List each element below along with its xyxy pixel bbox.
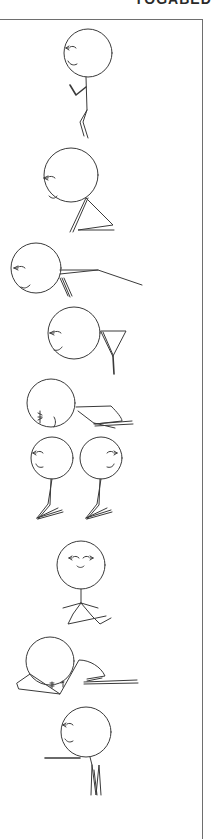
legs xyxy=(90,757,101,795)
arms-prayer xyxy=(70,85,86,95)
closed-eye-icon xyxy=(63,723,73,727)
pose-figure-2 xyxy=(44,148,114,232)
arms-quad xyxy=(17,674,60,694)
closed-eye-icon xyxy=(107,451,117,455)
closed-eye-icon xyxy=(44,176,55,180)
smile xyxy=(65,739,73,742)
smile xyxy=(107,464,114,467)
smile xyxy=(54,347,62,350)
arm-extended xyxy=(60,270,142,285)
smile xyxy=(49,196,57,198)
pose-figure-8 xyxy=(17,637,138,694)
head xyxy=(64,29,112,77)
smile xyxy=(21,285,30,288)
legs xyxy=(94,421,133,428)
head xyxy=(44,148,98,202)
closed-eye-icon xyxy=(38,411,42,423)
legs-y xyxy=(101,331,126,356)
legs xyxy=(84,678,138,684)
head xyxy=(61,707,111,757)
head xyxy=(48,307,100,359)
legs xyxy=(60,278,72,297)
head xyxy=(27,379,75,427)
pose-figure-1 xyxy=(64,29,112,138)
body-arch xyxy=(60,660,105,694)
pose-figure-5 xyxy=(27,379,133,428)
body-legs xyxy=(80,77,88,138)
pose-figure-6 xyxy=(31,437,122,519)
closed-eye-icon xyxy=(50,331,61,335)
pose-figure-3 xyxy=(11,243,142,297)
pose-figure-7 xyxy=(57,541,111,624)
head xyxy=(26,637,74,685)
closed-eye-icon xyxy=(33,451,43,455)
smile xyxy=(77,566,84,568)
smile xyxy=(68,61,77,65)
body-right xyxy=(86,479,101,519)
smile xyxy=(54,417,56,427)
head xyxy=(57,541,105,589)
head-left xyxy=(31,437,73,479)
body-arms xyxy=(63,589,98,608)
closed-eye-icon xyxy=(66,46,76,50)
head-right xyxy=(80,437,122,479)
pose-figure-9 xyxy=(45,707,111,795)
body-left xyxy=(37,479,52,519)
body-bent xyxy=(76,406,122,424)
stem xyxy=(113,356,114,374)
pose-figure-4 xyxy=(48,307,126,374)
legs-crossed xyxy=(68,603,111,624)
smile xyxy=(36,464,43,467)
closed-eye-icon xyxy=(14,266,25,270)
arms xyxy=(70,198,88,232)
closed-eyes-icon xyxy=(69,556,93,560)
